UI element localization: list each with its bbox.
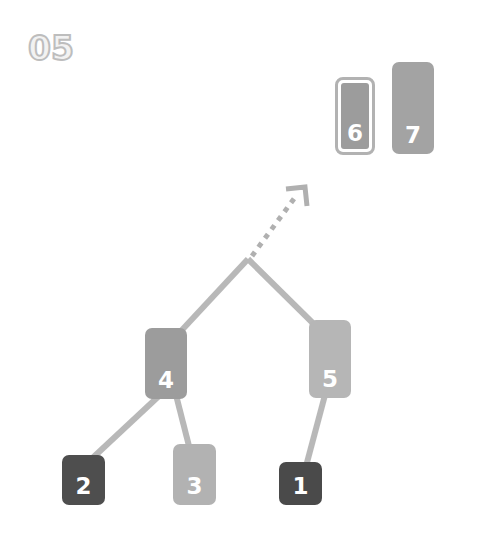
tree-node-4: 4 xyxy=(145,328,187,399)
tree-node-5: 5 xyxy=(309,320,351,398)
tree-node-3: 3 xyxy=(173,444,216,505)
edge-4-3 xyxy=(176,395,190,450)
node-6-label: 6 xyxy=(341,83,369,149)
sorted-node-6: 6 xyxy=(335,77,375,155)
edge-5-1 xyxy=(305,395,325,470)
tree-node-1: 1 xyxy=(279,462,322,505)
sorted-node-7: 7 xyxy=(392,62,434,154)
tree-node-2: 2 xyxy=(62,455,105,505)
dashed-arrow-icon xyxy=(252,187,307,256)
